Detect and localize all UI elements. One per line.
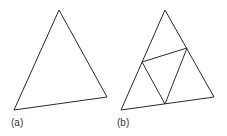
midpoint-line [142, 48, 187, 62]
midpoint-line [165, 48, 187, 104]
diagram-canvas [0, 0, 227, 136]
triangle-a [14, 10, 107, 110]
panel-b-label: (b) [117, 118, 129, 128]
inner-triangle-b [142, 48, 187, 104]
midpoint-line [142, 62, 165, 104]
panel-a-label: (a) [11, 118, 23, 128]
triangle-b [121, 10, 214, 110]
